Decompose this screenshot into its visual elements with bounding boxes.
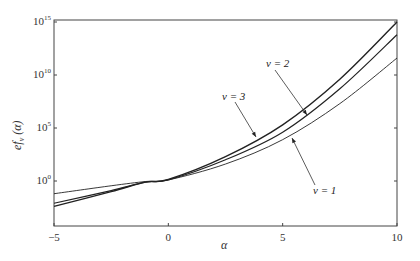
chart-canvas — [0, 0, 420, 261]
y-axis-label-sub: v — [17, 138, 26, 142]
y-tick-label: 1010 — [33, 67, 51, 80]
series-line-v3 — [54, 22, 397, 206]
x-tick-label: 5 — [280, 231, 286, 243]
annotation-v3: v = 3 — [222, 90, 245, 102]
series-lines — [54, 22, 397, 206]
y-tick-label: 1015 — [33, 14, 51, 27]
arrow-v1 — [292, 138, 315, 185]
annotation-v1-text: v = 1 — [313, 184, 336, 196]
y-axis-label: efv (α) — [10, 120, 26, 150]
annotation-v2-text: v = 2 — [266, 57, 289, 69]
annotation-v3-text: v = 3 — [222, 90, 245, 102]
arrow-v3-head-icon — [252, 132, 256, 137]
x-tick-label: −5 — [48, 231, 60, 243]
y-axis-label-arg: (α) — [10, 120, 24, 134]
plot-frame — [54, 20, 397, 226]
y-tick-label: 100 — [37, 173, 52, 186]
series-line-v2 — [54, 35, 397, 204]
annotation-v1: v = 1 — [313, 184, 336, 196]
annotation-v2: v = 2 — [266, 57, 289, 69]
x-tick-label: 10 — [392, 231, 403, 243]
arrow-v2 — [275, 70, 307, 115]
annotation-arrows — [235, 70, 315, 185]
x-tick-label: 0 — [166, 231, 172, 243]
y-axis-label-main: ef — [10, 141, 24, 150]
arrow-v3 — [235, 102, 256, 137]
x-axis-label: α — [221, 238, 227, 253]
arrow-v1-head-icon — [292, 138, 296, 143]
y-tick-label: 105 — [37, 120, 52, 133]
axis-ticks — [54, 22, 397, 226]
series-line-v1 — [54, 58, 397, 194]
